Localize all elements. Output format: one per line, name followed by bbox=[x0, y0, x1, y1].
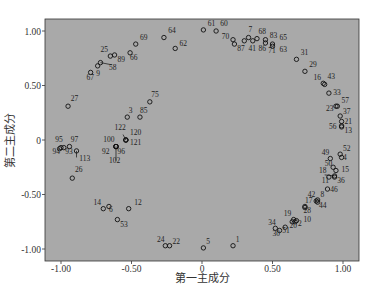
point-label-15: 15 bbox=[342, 165, 350, 174]
point-label-97: 97 bbox=[71, 135, 79, 144]
point-label-60: 60 bbox=[220, 19, 228, 28]
point-label-43: 43 bbox=[327, 72, 335, 81]
point-label-62: 62 bbox=[179, 39, 187, 48]
point-label-25: 25 bbox=[100, 45, 108, 54]
point-label-113: 113 bbox=[79, 154, 90, 163]
point-label-61: 61 bbox=[208, 19, 216, 28]
y-tick-label: -0.50 bbox=[21, 190, 41, 200]
point-label-34: 34 bbox=[268, 218, 276, 227]
point-label-36: 36 bbox=[337, 176, 345, 185]
point-label-33: 33 bbox=[333, 88, 341, 97]
point-label-96: 96 bbox=[117, 147, 125, 156]
point-label-93: 93 bbox=[65, 147, 73, 156]
scatter-chart: 1.000.500-0.50-1.00 -1.00-0.5000.501.00 … bbox=[0, 0, 374, 297]
x-axis-title: 第一主成分 bbox=[175, 271, 230, 284]
point-label-7: 7 bbox=[249, 25, 253, 34]
point-label-71: 71 bbox=[268, 46, 276, 55]
point-label-3: 3 bbox=[129, 106, 133, 115]
y-axis: 1.000.500-0.50-1.00 bbox=[21, 27, 45, 255]
x-tick-label: -0.50 bbox=[122, 264, 142, 274]
point-label-65: 65 bbox=[280, 33, 288, 42]
x-tick-label: 0.50 bbox=[264, 264, 281, 274]
point-label-120: 120 bbox=[130, 128, 142, 137]
point-label-87: 87 bbox=[237, 44, 245, 53]
point-label-100: 100 bbox=[103, 135, 115, 144]
point-label-56: 56 bbox=[329, 122, 337, 131]
x-tick-label: -1.00 bbox=[51, 264, 71, 274]
point-label-75: 75 bbox=[151, 90, 159, 99]
point-label-64: 64 bbox=[168, 26, 176, 35]
point-label-83: 83 bbox=[270, 31, 278, 40]
point-label-27: 27 bbox=[71, 94, 79, 103]
point-label-69: 69 bbox=[140, 33, 148, 42]
point-label-24: 24 bbox=[157, 235, 165, 244]
point-label-29: 29 bbox=[309, 60, 317, 69]
point-label-26: 26 bbox=[75, 165, 83, 174]
point-label-44: 44 bbox=[319, 201, 327, 210]
point-label-14: 14 bbox=[93, 198, 101, 207]
point-label-16: 16 bbox=[313, 73, 321, 82]
point-label-41: 41 bbox=[249, 44, 257, 53]
point-label-122: 122 bbox=[115, 123, 127, 132]
point-label-57: 57 bbox=[342, 96, 350, 105]
plot-area bbox=[45, 19, 359, 261]
point-label-31: 31 bbox=[301, 48, 309, 57]
point-label-86: 86 bbox=[258, 44, 266, 53]
point-label-58: 58 bbox=[109, 63, 117, 72]
point-label-85: 85 bbox=[140, 106, 148, 115]
point-label-42: 42 bbox=[308, 190, 316, 199]
y-tick-label: 0.50 bbox=[24, 81, 41, 91]
point-label-12: 12 bbox=[134, 198, 142, 207]
point-label-11: 11 bbox=[322, 176, 329, 185]
point-label-49: 49 bbox=[322, 148, 330, 157]
point-label-13: 13 bbox=[344, 126, 352, 135]
point-label-28: 28 bbox=[304, 206, 312, 215]
point-label-30: 30 bbox=[273, 229, 281, 238]
point-label-46: 46 bbox=[330, 185, 338, 194]
point-label-68: 68 bbox=[258, 27, 266, 36]
x-tick-label: 1.00 bbox=[335, 264, 352, 274]
point-label-67: 67 bbox=[86, 73, 94, 82]
point-label-21: 21 bbox=[344, 117, 352, 126]
point-label-6: 6 bbox=[109, 205, 113, 214]
point-label-66: 66 bbox=[130, 53, 138, 62]
point-label-95: 95 bbox=[55, 135, 63, 144]
point-label-53: 53 bbox=[120, 220, 128, 229]
point-label-2: 2 bbox=[298, 219, 302, 228]
point-label-92: 92 bbox=[102, 147, 110, 156]
y-tick-label: 0 bbox=[36, 136, 41, 146]
point-label-89: 89 bbox=[117, 55, 125, 64]
point-label-63: 63 bbox=[280, 45, 288, 54]
point-label-1: 1 bbox=[236, 235, 240, 244]
y-tick-label: 1.00 bbox=[24, 27, 41, 37]
point-label-5: 5 bbox=[206, 237, 210, 246]
point-label-37: 37 bbox=[343, 107, 351, 116]
point-label-23: 23 bbox=[326, 104, 334, 113]
point-label-52: 52 bbox=[343, 144, 351, 153]
point-label-22: 22 bbox=[172, 237, 180, 246]
point-label-94: 94 bbox=[53, 147, 61, 156]
point-label-20: 20 bbox=[289, 221, 297, 230]
point-label-8: 8 bbox=[320, 190, 324, 199]
point-label-9: 9 bbox=[96, 69, 100, 78]
point-label-4: 4 bbox=[343, 153, 347, 162]
point-label-121: 121 bbox=[130, 138, 142, 147]
y-axis-title: 第二主成分 bbox=[3, 113, 16, 168]
point-label-102: 102 bbox=[109, 156, 121, 165]
point-label-10: 10 bbox=[304, 215, 312, 224]
point-label-50: 50 bbox=[325, 159, 333, 168]
y-tick-label: -1.00 bbox=[21, 245, 41, 255]
point-label-19: 19 bbox=[284, 209, 292, 218]
point-label-70: 70 bbox=[222, 32, 230, 41]
